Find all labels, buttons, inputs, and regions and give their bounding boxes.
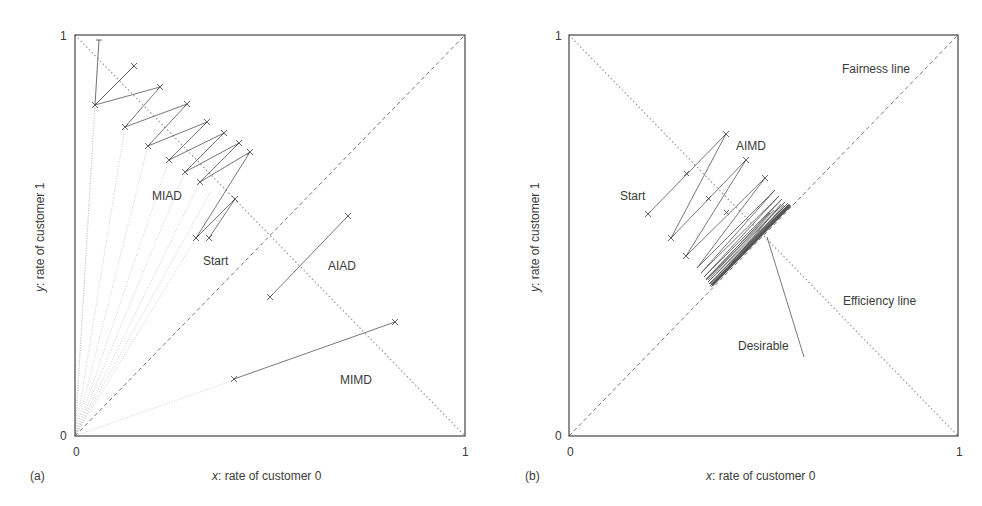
aiad-trajectory [270, 216, 348, 297]
x-tick-right-a: 1 [462, 445, 469, 459]
y-axis-title-a: y: rate of customer 1 [33, 182, 47, 293]
efficiency-line-a [75, 35, 465, 436]
efficiency-line-b [569, 35, 958, 436]
label-start-b: Start [620, 189, 646, 203]
label-start-a: Start [203, 254, 229, 268]
fairness-line-a [75, 35, 465, 436]
miad-trajectory [95, 40, 250, 238]
label-miad: MIAD [152, 189, 182, 203]
panel-a: MIAD Start AIAD MIMD 1 0 0 1 x: rate of … [30, 29, 469, 483]
panel-label-a: (a) [30, 469, 45, 483]
fairness-line-b [569, 35, 958, 436]
x-axis-title-a: x: rate of customer 0 [211, 469, 322, 483]
y-tick-top-b: 1 [555, 29, 562, 43]
label-mimd: MIMD [340, 373, 372, 387]
label-fairness-line: Fairness line [842, 62, 910, 76]
y-tick-bottom-a: 0 [60, 429, 67, 443]
aimd-trajectory [648, 134, 789, 286]
mimd-trajectory [234, 322, 395, 379]
x-tick-left-a: 0 [73, 445, 80, 459]
plot-frame-b [569, 35, 958, 436]
y-tick-top-a: 1 [60, 29, 67, 43]
label-aiad: AIAD [328, 259, 356, 273]
plot-frame-a [75, 35, 465, 436]
label-efficiency-line: Efficiency line [843, 294, 916, 308]
panel-label-b: (b) [525, 469, 540, 483]
miad-markers [92, 40, 253, 241]
x-tick-left-b: 0 [567, 445, 574, 459]
y-tick-bottom-b: 0 [555, 429, 562, 443]
panel-b: Fairness line AIMD Start Efficiency line… [525, 29, 963, 483]
label-desirable: Desirable [738, 339, 789, 353]
x-tick-right-b: 1 [956, 445, 963, 459]
x-axis-title-b: x: rate of customer 0 [705, 469, 816, 483]
label-aimd: AIMD [736, 139, 766, 153]
miad-rays [75, 40, 234, 436]
y-axis-title-b: y: rate of customer 1 [528, 182, 542, 293]
figure-canvas: MIAD Start AIAD MIMD 1 0 0 1 x: rate of … [0, 0, 982, 506]
